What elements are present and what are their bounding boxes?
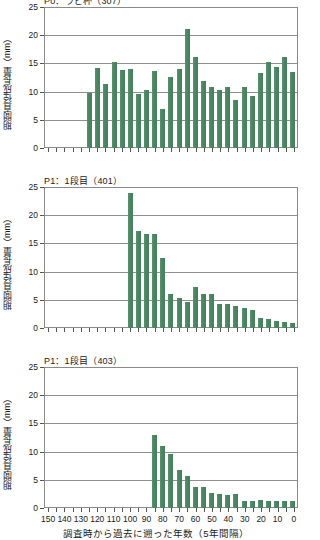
x-tick-label-110: 110: [107, 514, 121, 524]
bar-slot: [248, 367, 256, 508]
y-tick-label-25: 25: [29, 363, 38, 372]
bar-slot: [94, 367, 102, 508]
bar: [152, 71, 157, 148]
x-tick: [187, 328, 188, 332]
x-tick-label-100: 100: [123, 514, 137, 524]
bar: [168, 77, 173, 148]
bar-slot: [183, 7, 191, 148]
bar-slot: [167, 367, 175, 508]
x-tick: [269, 328, 270, 332]
x-tick: [278, 508, 279, 512]
bar: [242, 308, 247, 328]
bar-slot: [240, 367, 248, 508]
bar-slot: [273, 187, 281, 328]
x-tick: [64, 328, 65, 332]
bar: [258, 73, 263, 148]
bar-slot: [240, 187, 248, 328]
bar-slot: [61, 187, 69, 328]
bar-slot: [151, 367, 159, 508]
x-tick: [220, 148, 221, 152]
bar: [250, 501, 255, 508]
bar: [177, 298, 182, 328]
bar: [290, 501, 295, 508]
bar: [209, 87, 214, 148]
bar-slot: [264, 7, 272, 148]
y-tick-label-5: 5: [33, 476, 38, 485]
x-tick: [114, 508, 115, 512]
x-tick: [146, 148, 147, 152]
chart-title-3: P1：1段目（403）: [44, 356, 122, 366]
bar-slot: [53, 187, 61, 328]
x-tick: [261, 508, 262, 512]
bar-slot: [232, 187, 240, 328]
x-tick: [253, 328, 254, 332]
bar: [201, 487, 206, 508]
x-tick: [179, 148, 180, 152]
bar-slot: [143, 367, 151, 508]
bar: [258, 500, 263, 508]
bar: [233, 306, 238, 328]
plot-area-2: 0510152025: [44, 187, 298, 328]
y-tick-label-0: 0: [33, 324, 38, 333]
y-tick-label-20: 20: [29, 391, 38, 400]
x-tick: [146, 508, 147, 512]
bar-slot: [53, 367, 61, 508]
bar-slot: [216, 7, 224, 148]
x-tick: [114, 328, 115, 332]
bar: [193, 287, 198, 328]
bar-slot: [191, 187, 199, 328]
plot-area-1: 0510152025: [44, 7, 298, 148]
bar-slot: [134, 7, 142, 148]
bar: [177, 69, 182, 148]
x-tick: [163, 328, 164, 332]
x-tick: [105, 148, 106, 152]
x-tick-label-120: 120: [90, 514, 104, 524]
x-tick: [89, 508, 90, 512]
bar: [266, 319, 271, 328]
bar-slot: [199, 187, 207, 328]
x-tick-label-50: 50: [207, 514, 216, 524]
bar: [95, 68, 100, 148]
bar-slot: [143, 187, 151, 328]
bar-series-3: [44, 367, 298, 508]
bar-slot: [45, 367, 53, 508]
y-tick-label-25: 25: [29, 183, 38, 192]
bar-slot: [110, 367, 118, 508]
x-tick: [130, 148, 131, 152]
bar-slot: [102, 7, 110, 148]
bar-slot: [102, 367, 110, 508]
bar: [209, 294, 214, 328]
bar-slot: [94, 7, 102, 148]
y-tick-label-20: 20: [29, 211, 38, 220]
x-tick: [97, 508, 98, 512]
x-tick: [286, 328, 287, 332]
x-tick: [155, 508, 156, 512]
bar-slot: [159, 367, 167, 508]
bar-slot: [102, 187, 110, 328]
x-tick: [245, 148, 246, 152]
bar: [185, 476, 190, 508]
bar: [128, 69, 133, 148]
bar: [266, 62, 271, 148]
x-tick: [48, 328, 49, 332]
x-tick: [278, 148, 279, 152]
bar-slot: [45, 187, 53, 328]
x-tick: [204, 508, 205, 512]
y-tick-label-0: 0: [33, 144, 38, 153]
bar-slot: [191, 367, 199, 508]
bar-slot: [69, 7, 77, 148]
x-tick-label-60: 60: [191, 514, 200, 524]
x-tick: [204, 328, 205, 332]
bar-slot: [208, 7, 216, 148]
bar-slot: [118, 187, 126, 328]
x-tick: [212, 328, 213, 332]
x-tick-label-40: 40: [224, 514, 233, 524]
bar: [233, 100, 238, 148]
x-tick: [105, 328, 106, 332]
x-axis-ticks-1: [44, 148, 298, 153]
x-tick: [48, 148, 49, 152]
bar-slot: [86, 187, 94, 328]
x-tick: [228, 508, 229, 512]
x-tick-label-150: 150: [41, 514, 55, 524]
bar-slot: [216, 367, 224, 508]
